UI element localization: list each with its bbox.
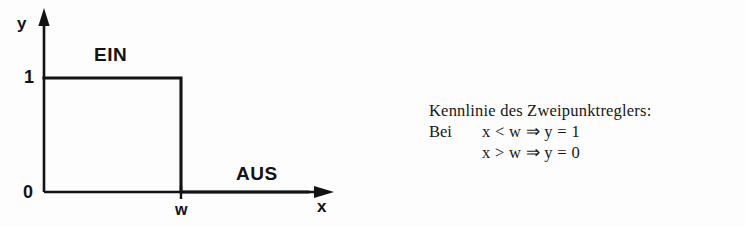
x-tick-label-w: w [175,202,187,218]
x-axis-label: x [317,198,326,215]
caption-condition-row-1: Bei x < w ⇒ y = 1 [429,121,651,142]
y-axis-arrow-icon [38,8,49,26]
caption-condition-lead-1: Bei [429,121,482,142]
caption-condition-expression-1: x < w ⇒ y = 1 [482,121,580,142]
caption-block: Kennlinie des Zweipunktreglers: Bei x < … [429,100,651,163]
caption-condition-row-2: x > w ⇒ y = 0 [429,142,651,163]
caption-condition-expression-2: x > w ⇒ y = 0 [482,142,580,163]
figure-container: y x 1 0 w EIN AUS Kennlinie des Zweipunk… [0,0,745,227]
y-tick-label-0: 0 [23,183,33,201]
y-tick-label-1: 1 [24,68,34,86]
step-function-plot [0,0,380,227]
annotation-aus: AUS [236,164,278,183]
y-axis [38,8,49,192]
y-axis-label: y [17,15,26,32]
annotation-ein: EIN [94,45,127,64]
caption-title: Kennlinie des Zweipunktreglers: [429,100,651,121]
